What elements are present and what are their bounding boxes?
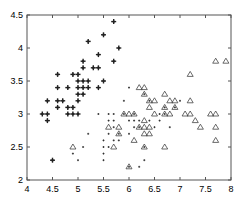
x-tick-label: 8 bbox=[228, 184, 233, 194]
x-tick-label: 5 bbox=[75, 184, 80, 194]
x-tick-label: 4.5 bbox=[46, 184, 59, 194]
y-tick-label: 2 bbox=[18, 175, 23, 185]
y-tick-label: 2.5 bbox=[10, 142, 23, 152]
x-tick-label: 6 bbox=[126, 184, 131, 194]
x-tick-label: 7.5 bbox=[199, 184, 212, 194]
x-tick-label: 7 bbox=[177, 184, 182, 194]
x-tick-label: 5.5 bbox=[97, 184, 110, 194]
y-tick-label: 4.5 bbox=[10, 10, 23, 20]
y-tick-label: 4 bbox=[18, 43, 23, 53]
scatter-chart: 44.555.566.577.58 22.533.544.5 bbox=[0, 0, 245, 205]
plot-area bbox=[27, 15, 231, 180]
x-tick-label: 6.5 bbox=[148, 184, 161, 194]
y-tick-label: 3.5 bbox=[10, 76, 23, 86]
y-tick-label: 3 bbox=[18, 109, 23, 119]
x-tick-label: 4 bbox=[24, 184, 29, 194]
